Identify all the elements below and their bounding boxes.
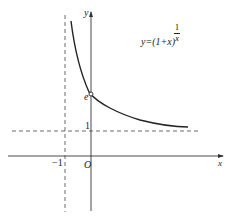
- one-label: 1: [85, 121, 90, 131]
- function-graph: [0, 0, 230, 218]
- origin-label: O: [84, 160, 91, 170]
- formula-exponent: 1 x: [174, 24, 180, 43]
- formula-base: y=(1+x): [141, 36, 175, 47]
- exponent-numerator: 1: [175, 24, 179, 32]
- x-axis-label: x: [218, 159, 222, 168]
- exponent-denominator: x: [175, 35, 179, 43]
- minus-one-label: −1: [52, 158, 63, 168]
- y-axis-label: y: [84, 8, 88, 18]
- open-point-e: [89, 92, 93, 96]
- function-formula: y=(1+x): [141, 37, 175, 47]
- e-label: e: [84, 92, 88, 102]
